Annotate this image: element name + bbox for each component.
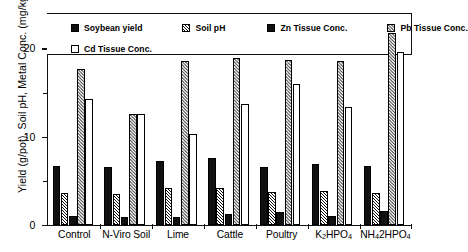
bar-zn-tissue-conc bbox=[69, 216, 77, 225]
bar-cd-tissue-conc bbox=[189, 134, 197, 225]
bar-group bbox=[204, 13, 256, 225]
bar-pb-tissue-conc bbox=[77, 69, 85, 225]
bar-soil-ph bbox=[268, 192, 276, 225]
bar-soybean-yield bbox=[312, 164, 320, 225]
bar-cd-tissue-conc bbox=[241, 104, 249, 225]
bar-soybean-yield bbox=[208, 158, 216, 225]
x-tick-label: NH42HPO4 bbox=[354, 229, 418, 241]
bar-zn-tissue-conc bbox=[121, 217, 129, 225]
bar-zn-tissue-conc bbox=[276, 212, 284, 225]
bar-soil-ph bbox=[372, 193, 380, 225]
bar-group bbox=[256, 13, 308, 225]
bar-soybean-yield bbox=[156, 161, 164, 225]
bar-pb-tissue-conc bbox=[337, 61, 345, 225]
bar-cd-tissue-conc bbox=[85, 99, 93, 225]
y-minor-tick bbox=[43, 181, 47, 182]
bar-series-container bbox=[48, 13, 411, 225]
bar-group bbox=[152, 13, 204, 225]
bar-soil-ph bbox=[216, 188, 224, 225]
bar-zn-tissue-conc bbox=[380, 211, 388, 225]
bar-pb-tissue-conc bbox=[181, 61, 189, 225]
bar-soil-ph bbox=[165, 188, 173, 225]
bar-soil-ph bbox=[113, 194, 121, 225]
bar-soybean-yield bbox=[104, 167, 112, 225]
y-tick-label: 20 bbox=[9, 43, 35, 53]
y-minor-tick bbox=[43, 93, 47, 94]
bar-cd-tissue-conc bbox=[137, 114, 145, 225]
bar-soybean-yield bbox=[260, 167, 268, 225]
bar-group bbox=[360, 13, 412, 225]
bar-soybean-yield bbox=[364, 166, 372, 225]
bar-cd-tissue-conc bbox=[345, 107, 353, 225]
bar-zn-tissue-conc bbox=[225, 214, 233, 225]
y-tick-label: 0 bbox=[9, 220, 35, 230]
y-axis-title: Yield (g/pot), Soil pH, Metal Conc. (mg/… bbox=[15, 0, 29, 193]
bar-cd-tissue-conc bbox=[397, 52, 405, 225]
bar-pb-tissue-conc bbox=[388, 33, 396, 225]
y-tick-label: 10 bbox=[9, 132, 35, 142]
bar-zn-tissue-conc bbox=[173, 217, 181, 225]
bar-group bbox=[48, 13, 100, 225]
y-tick bbox=[42, 137, 47, 138]
y-tick bbox=[42, 48, 47, 49]
bar-cd-tissue-conc bbox=[293, 84, 301, 225]
bar-pb-tissue-conc bbox=[285, 60, 293, 225]
bar-soil-ph bbox=[320, 191, 328, 225]
bar-group bbox=[308, 13, 360, 225]
bar-soybean-yield bbox=[53, 166, 61, 225]
y-tick bbox=[42, 225, 47, 226]
bar-pb-tissue-conc bbox=[233, 58, 241, 225]
bar-zn-tissue-conc bbox=[328, 216, 336, 225]
bar-group bbox=[100, 13, 152, 225]
bar-pb-tissue-conc bbox=[129, 114, 137, 225]
bar-soil-ph bbox=[61, 193, 69, 225]
